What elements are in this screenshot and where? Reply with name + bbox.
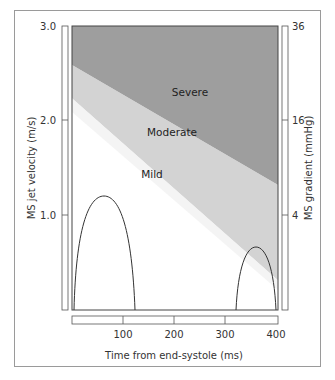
y2-axis-title: MS gradient (mmHg) bbox=[303, 116, 314, 221]
y2tick-4: 4 bbox=[292, 210, 298, 221]
mild-label: Mild bbox=[141, 168, 163, 180]
ytick-3: 3.0 bbox=[40, 21, 56, 32]
y2tick-36: 36 bbox=[292, 21, 305, 32]
xtick-300: 300 bbox=[215, 329, 234, 340]
ytick-1: 1.0 bbox=[40, 210, 56, 221]
xtick-200: 200 bbox=[164, 329, 183, 340]
x-axis-title: Time from end-systole (ms) bbox=[104, 350, 243, 361]
severe-label: Severe bbox=[172, 86, 208, 98]
left-axis-bar bbox=[62, 26, 68, 310]
moderate-label: Moderate bbox=[147, 126, 197, 138]
y-axis-title: MS jet velocity (m/s) bbox=[26, 117, 37, 220]
chart: Severe Moderate Mild 3.0 2.0 1.0 MS jet … bbox=[0, 0, 335, 380]
xtick-100: 100 bbox=[113, 329, 132, 340]
right-axis-bar bbox=[282, 26, 288, 310]
ytick-2: 2.0 bbox=[40, 115, 56, 126]
xtick-400: 400 bbox=[266, 329, 285, 340]
x-axis-bar bbox=[72, 316, 278, 324]
